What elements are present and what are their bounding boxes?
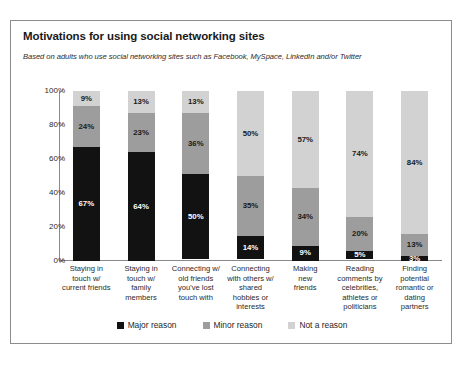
legend-label: Not a reason bbox=[299, 320, 347, 330]
x-category-label-line: family bbox=[114, 283, 169, 293]
bar-segment: 9% bbox=[292, 246, 319, 261]
bar-segment: 35% bbox=[237, 176, 264, 236]
bar-group: 13%36%50% bbox=[182, 91, 209, 261]
x-category-label: Makingnewfriends bbox=[278, 264, 333, 293]
legend-item: Major reason bbox=[117, 320, 177, 330]
bar-segment-value-label: 64% bbox=[133, 203, 149, 211]
bar-group: 13%23%64% bbox=[128, 91, 155, 261]
x-category-label-line: Staying in bbox=[114, 264, 169, 274]
x-category-label-line: Making bbox=[278, 264, 333, 274]
bar-segment: 34% bbox=[292, 188, 319, 246]
bar-segment: 3% bbox=[401, 256, 428, 261]
bar-segment: 14% bbox=[237, 236, 264, 260]
x-category-label-line: celebrities, bbox=[333, 283, 388, 293]
x-category-label-line: hobbies or bbox=[223, 293, 278, 303]
legend-item: Not a reason bbox=[288, 320, 347, 330]
x-category-label-line: dating bbox=[387, 293, 442, 303]
x-category-label-line: members bbox=[114, 293, 169, 303]
bar-group: 74%20%5% bbox=[346, 91, 373, 261]
bar-group: 57%34%9% bbox=[292, 91, 319, 261]
x-category-label-line: new bbox=[278, 274, 333, 284]
x-category-label-line: Connecting bbox=[223, 264, 278, 274]
bar-segment: 13% bbox=[128, 91, 155, 113]
bar-segment-value-label: 14% bbox=[243, 244, 259, 252]
x-category-label-line: Connecting w/ bbox=[168, 264, 223, 274]
x-category-label-line: you've lost bbox=[168, 283, 223, 293]
bar-stack: 13%36%50% bbox=[182, 91, 209, 261]
x-category-label-line: partners bbox=[387, 302, 442, 312]
bar-segment-value-label: 35% bbox=[243, 202, 259, 210]
plot-area: 100%80%60%40%20%0% 9%24%67%13%23%64%13%3… bbox=[59, 91, 442, 261]
x-category-label: Findingpotentialromantic ordatingpartner… bbox=[387, 264, 442, 312]
x-category-label-line: current friends bbox=[59, 283, 114, 293]
bar-stack: 74%20%5% bbox=[346, 91, 373, 261]
bar-segment-value-label: 36% bbox=[188, 140, 204, 148]
bar-segment-value-label: 84% bbox=[407, 159, 423, 167]
x-category-label-line: comments by bbox=[333, 274, 388, 284]
bar-segment: 9% bbox=[73, 91, 100, 106]
x-category-label-line: touch w/ bbox=[59, 274, 114, 284]
bar-segment: 84% bbox=[401, 91, 428, 234]
bar-segment: 23% bbox=[128, 113, 155, 152]
bar-stack: 50%35%14% bbox=[237, 91, 264, 261]
x-category-label-line: touch with bbox=[168, 293, 223, 303]
bar-segment: 67% bbox=[73, 147, 100, 261]
legend-swatch bbox=[203, 322, 210, 329]
bar-segment-value-label: 24% bbox=[79, 123, 95, 131]
bar-segment-value-label: 9% bbox=[300, 249, 311, 257]
x-category-label-line: politicians bbox=[333, 302, 388, 312]
legend-swatch bbox=[117, 322, 124, 329]
bar-segment: 57% bbox=[292, 91, 319, 188]
x-category-label-line: friends bbox=[278, 283, 333, 293]
bar-segment-value-label: 5% bbox=[354, 251, 365, 259]
chart-title: Motivations for using social networking … bbox=[23, 30, 265, 42]
x-category-label-line: with others w/ bbox=[223, 274, 278, 284]
bar-stack: 57%34%9% bbox=[292, 91, 319, 261]
x-category-label: Readingcomments bycelebrities,athletes o… bbox=[333, 264, 388, 312]
x-category-label-line: interests bbox=[223, 302, 278, 312]
bar-group: 9%24%67% bbox=[73, 91, 100, 261]
bar-segment: 24% bbox=[73, 106, 100, 147]
bar-stack: 9%24%67% bbox=[73, 91, 100, 261]
x-category-label-line: old friends bbox=[168, 274, 223, 284]
bar-segment-value-label: 50% bbox=[243, 130, 259, 138]
bar-segment-value-label: 20% bbox=[352, 230, 368, 238]
x-category-label: Staying intouch w/familymembers bbox=[114, 264, 169, 302]
bar-segment-value-label: 13% bbox=[188, 98, 204, 106]
x-category-label-line: Reading bbox=[333, 264, 388, 274]
bar-segment-value-label: 50% bbox=[188, 213, 204, 221]
bars-layer: 9%24%67%13%23%64%13%36%50%50%35%14%57%34… bbox=[59, 91, 442, 261]
bar-segment-value-label: 23% bbox=[133, 129, 149, 137]
legend-label: Minor reason bbox=[214, 320, 263, 330]
chart-frame: Motivations for using social networking … bbox=[10, 20, 452, 344]
bar-segment: 50% bbox=[237, 91, 264, 176]
x-category-label-line: athletes or bbox=[333, 293, 388, 303]
x-category-label-line: Staying in bbox=[59, 264, 114, 274]
bar-segment: 5% bbox=[346, 251, 373, 260]
y-tick-mark bbox=[59, 261, 63, 262]
legend-item: Minor reason bbox=[203, 320, 263, 330]
bar-segment: 36% bbox=[182, 113, 209, 174]
x-category-label: Staying intouch w/current friends bbox=[59, 264, 114, 293]
bar-segment-value-label: 3% bbox=[409, 256, 420, 261]
x-category-label-line: potential bbox=[387, 274, 442, 284]
bar-stack: 84%13%3% bbox=[401, 91, 428, 261]
legend-swatch bbox=[288, 322, 295, 329]
bar-segment-value-label: 74% bbox=[352, 150, 368, 158]
bar-segment: 74% bbox=[346, 91, 373, 217]
bar-segment-value-label: 34% bbox=[297, 213, 313, 221]
chart-subtitle: Based on adults who use social networkin… bbox=[23, 52, 362, 61]
bar-segment: 13% bbox=[182, 91, 209, 113]
x-category-label-line: touch w/ bbox=[114, 274, 169, 284]
bar-segment-value-label: 13% bbox=[407, 241, 423, 249]
bar-segment: 20% bbox=[346, 217, 373, 251]
bar-segment-value-label: 67% bbox=[79, 200, 95, 208]
bar-segment: 64% bbox=[128, 152, 155, 261]
bar-segment: 50% bbox=[182, 174, 209, 259]
bar-group: 84%13%3% bbox=[401, 91, 428, 261]
x-axis-category-labels: Staying intouch w/current friendsStaying… bbox=[59, 264, 442, 322]
x-category-label-line: shared bbox=[223, 283, 278, 293]
x-category-label-line: Finding bbox=[387, 264, 442, 274]
bar-stack: 13%23%64% bbox=[128, 91, 155, 261]
bar-group: 50%35%14% bbox=[237, 91, 264, 261]
